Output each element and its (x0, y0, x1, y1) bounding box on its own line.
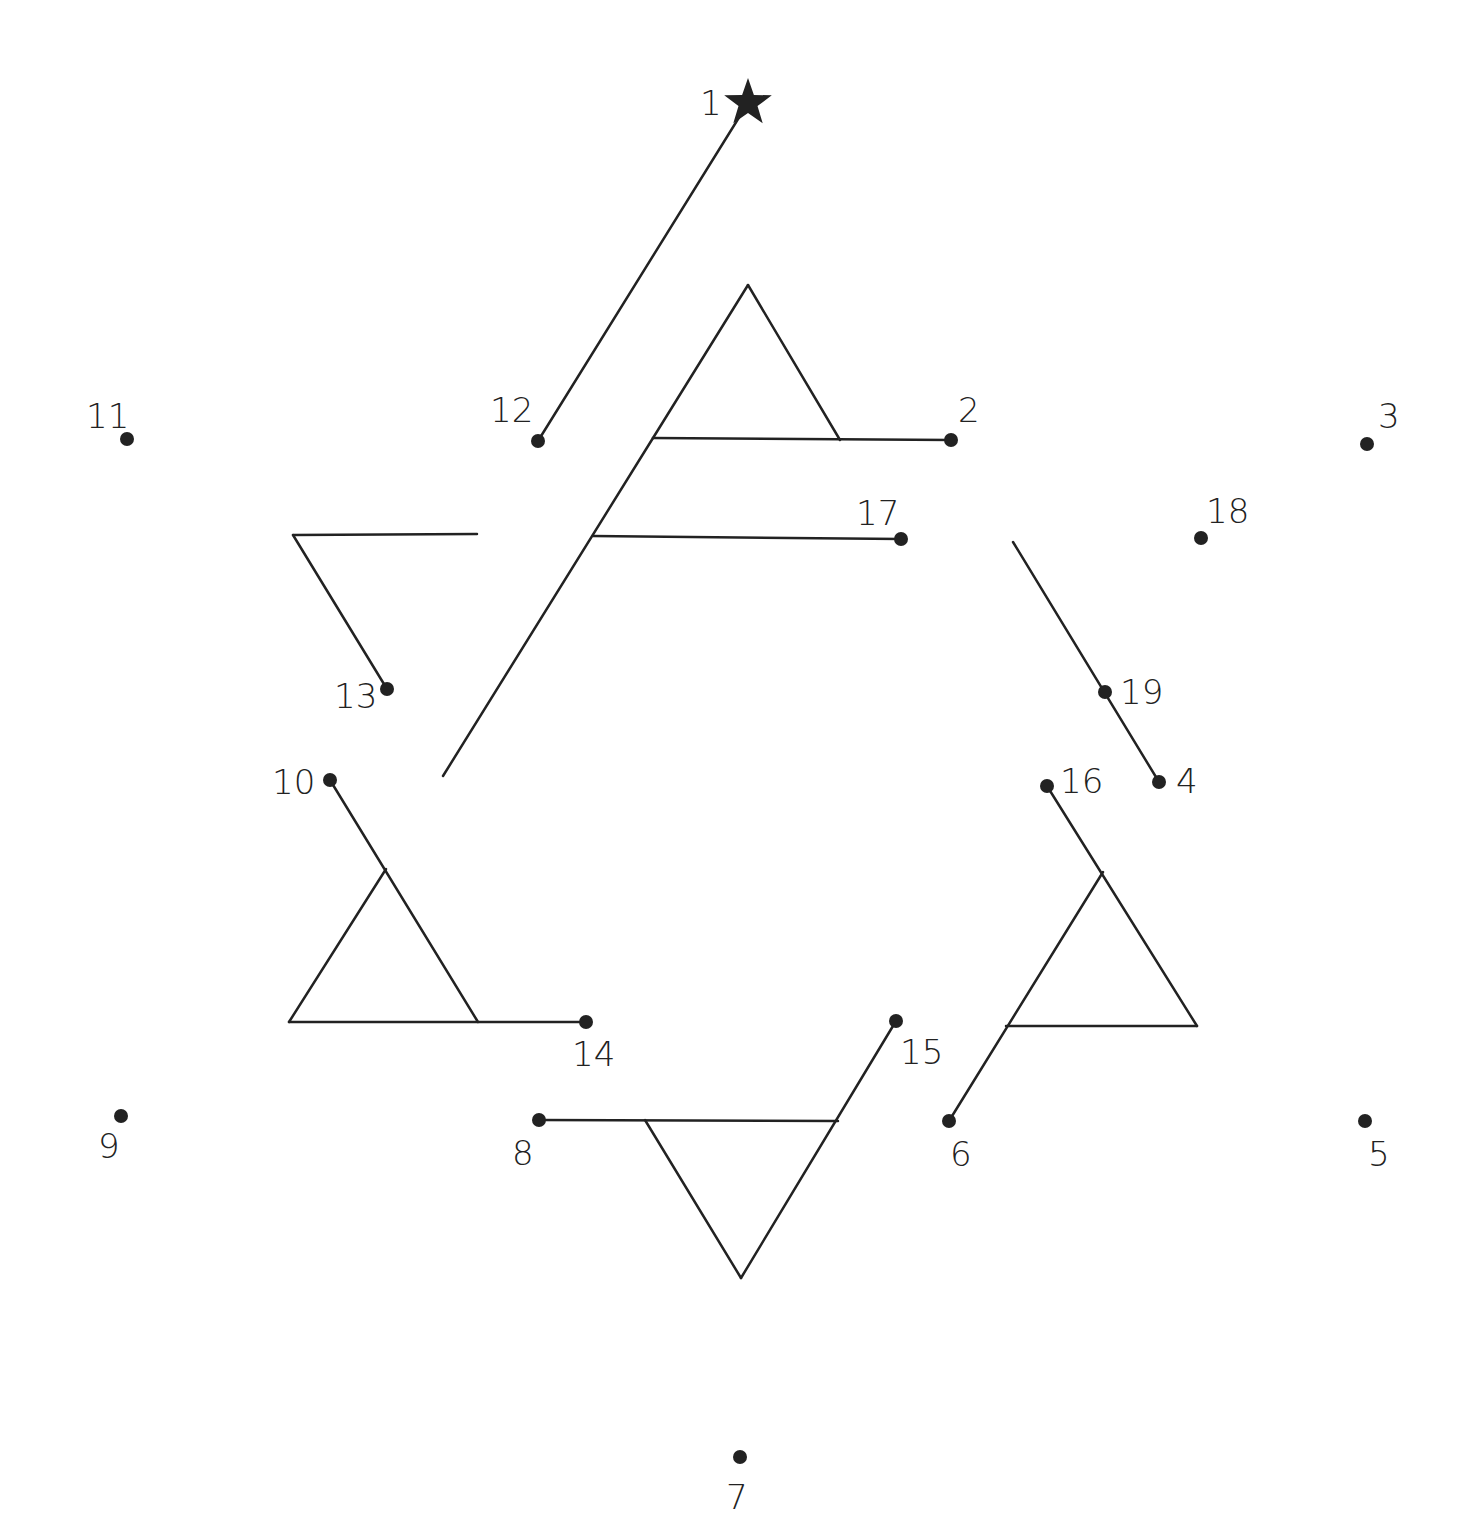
dot-label-17: 17 (856, 493, 899, 533)
line-segment (293, 535, 387, 689)
dot-label-4: 4 (1176, 761, 1198, 801)
dot-2[interactable] (944, 433, 958, 447)
dot-8[interactable] (532, 1113, 546, 1127)
line-segment (748, 285, 840, 440)
dot-label-6: 6 (950, 1134, 972, 1174)
dot-label-2: 2 (958, 390, 980, 430)
dot-9[interactable] (114, 1109, 128, 1123)
line-segment (443, 438, 653, 776)
dot-label-11: 11 (86, 396, 129, 436)
line-segment (330, 780, 478, 1022)
line-segment (538, 103, 748, 441)
dot-label-5: 5 (1368, 1134, 1390, 1174)
line-segment (645, 1120, 741, 1278)
line-segment (593, 536, 901, 539)
dot-label-16: 16 (1060, 761, 1103, 801)
line-segment (949, 872, 1103, 1121)
dot-6[interactable] (942, 1114, 956, 1128)
dot-label-12: 12 (490, 390, 533, 430)
line-segment (741, 1021, 896, 1278)
line-segment (653, 438, 951, 440)
dot-10[interactable] (323, 773, 337, 787)
dot-16[interactable] (1040, 779, 1054, 793)
line-segment (1013, 542, 1159, 782)
dot-label-1: 1 (700, 83, 722, 123)
dot-3[interactable] (1360, 437, 1374, 451)
number-labels: 12345678910111213141516171819 (86, 83, 1400, 1517)
dot-label-8: 8 (512, 1133, 534, 1173)
dot-15[interactable] (889, 1014, 903, 1028)
line-segment (1047, 786, 1197, 1026)
dot-17[interactable] (894, 532, 908, 546)
dot-label-3: 3 (1378, 396, 1400, 436)
dot-label-15: 15 (900, 1032, 943, 1072)
dot-label-18: 18 (1206, 491, 1249, 531)
dot-18[interactable] (1194, 531, 1208, 545)
dot-label-7: 7 (726, 1477, 748, 1517)
dot-label-14: 14 (572, 1034, 615, 1074)
start-star-icon[interactable] (724, 78, 772, 123)
line-segment (289, 869, 386, 1022)
dot-label-19: 19 (1120, 672, 1163, 712)
dot-label-9: 9 (98, 1126, 120, 1166)
dot-7[interactable] (733, 1450, 747, 1464)
line-segment (653, 285, 748, 438)
dot-5[interactable] (1358, 1114, 1372, 1128)
dot-label-13: 13 (334, 676, 377, 716)
drawn-lines (289, 103, 1197, 1278)
dot-13[interactable] (380, 682, 394, 696)
dot-label-10: 10 (272, 762, 315, 802)
line-segment (293, 534, 477, 535)
dot-14[interactable] (579, 1015, 593, 1029)
line-segment (539, 1120, 838, 1121)
dot-4[interactable] (1152, 775, 1166, 789)
dot-12[interactable] (531, 434, 545, 448)
dot-to-dot-canvas: 12345678910111213141516171819 (0, 0, 1469, 1537)
dot-19[interactable] (1098, 685, 1112, 699)
